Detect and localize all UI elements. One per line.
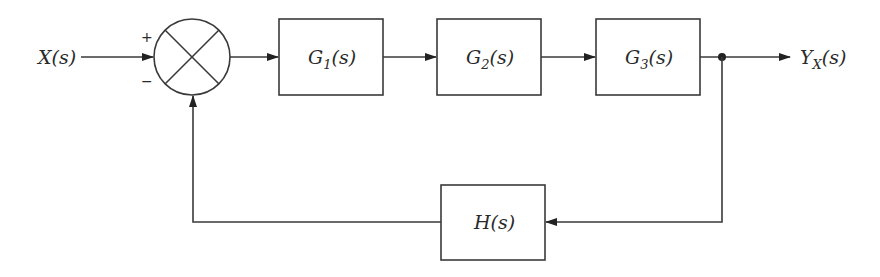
block-g1: G1(s): [279, 19, 383, 95]
block-g2: G2(s): [437, 19, 541, 95]
summing-junction: [154, 19, 230, 95]
input-label: X(s): [36, 46, 76, 68]
block-diagram: X(s) + − G1(s) G2(s) G3(s) YX(s) H(s): [0, 0, 880, 277]
block-g3: G3(s): [596, 19, 700, 95]
block-h: H(s): [441, 185, 545, 260]
output-label: YX(s): [800, 46, 846, 72]
feedback-path-left: [193, 96, 441, 222]
minus-sign: −: [141, 73, 153, 89]
svg-text:H(s): H(s): [473, 211, 515, 233]
plus-sign: +: [141, 29, 153, 45]
